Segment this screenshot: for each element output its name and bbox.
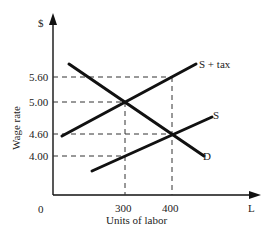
y-axis-arrow-icon [49, 13, 57, 25]
y-tick-5-00: 5.00 [29, 96, 49, 108]
supply-plus-tax-label: S + tax [199, 58, 231, 70]
origin-label: 0 [38, 203, 44, 215]
y-tick-5-60: 5.60 [29, 71, 49, 83]
supply-label: S [213, 109, 219, 121]
demand-curve [69, 64, 204, 156]
x-axis-arrow-icon [249, 191, 261, 199]
supply-plus-tax-curve [62, 64, 196, 136]
x-axis-symbol: L [248, 202, 255, 214]
y-axis-symbol: $ [38, 17, 44, 29]
x-tick-300: 300 [115, 202, 132, 214]
x-tick-400: 400 [162, 202, 179, 214]
labor-market-tax-chart: $ 5.60 5.00 4.60 4.00 Wage rate 0 300 40… [0, 0, 273, 231]
supply-curve [92, 117, 212, 171]
y-tick-4-60: 4.60 [29, 128, 49, 140]
x-axis-label: Units of labor [106, 214, 167, 226]
y-axis-label: Wage rate [10, 106, 22, 150]
y-tick-4-00: 4.00 [29, 150, 49, 162]
demand-label: D [203, 150, 211, 162]
